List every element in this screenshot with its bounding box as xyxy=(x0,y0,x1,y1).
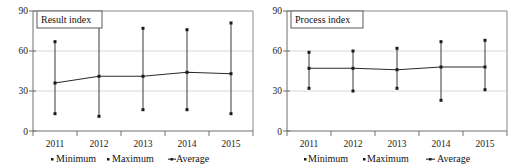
x-tick-label-2013: 2013 xyxy=(134,139,153,149)
legend-marker-minimum-icon xyxy=(304,158,307,161)
y-tick-label-0: 0 xyxy=(277,127,282,137)
max-point-2012 xyxy=(352,50,355,53)
avg-point-2015 xyxy=(484,66,487,69)
x-tick-label-2015: 2015 xyxy=(476,139,495,149)
x-tick-label-2012: 2012 xyxy=(344,139,363,149)
x-tick-label-2014: 2014 xyxy=(178,139,197,149)
min-point-2011 xyxy=(308,87,311,90)
avg-point-2014 xyxy=(186,71,189,74)
avg-point-2013 xyxy=(396,68,399,71)
legend-label-maximum: Maximum xyxy=(367,153,409,164)
legend-label-average: Average xyxy=(437,153,471,164)
min-point-2013 xyxy=(396,87,399,90)
max-point-2014 xyxy=(186,28,189,31)
legend-label-average: Average xyxy=(176,153,210,164)
chart-panel-process-index: 90 60 30 0 xyxy=(260,0,519,168)
avg-point-2012 xyxy=(352,67,355,70)
chart-panel-result-index: 90 60 30 0 xyxy=(0,0,259,168)
avg-point-2014 xyxy=(440,66,443,69)
min-point-2015 xyxy=(230,112,233,115)
max-point-2013 xyxy=(396,47,399,50)
legend-marker-minimum-icon xyxy=(51,158,54,161)
y-tick-label-0: 0 xyxy=(23,127,28,137)
x-tick-label-2011: 2011 xyxy=(300,139,319,149)
legend-marker-maximum-icon xyxy=(107,158,110,161)
max-point-2015 xyxy=(484,39,487,42)
avg-point-2011 xyxy=(308,67,311,70)
x-tick-label-2014: 2014 xyxy=(432,139,451,149)
legend-marker-maximum-icon xyxy=(363,158,366,161)
min-point-2012 xyxy=(352,90,355,93)
max-point-2013 xyxy=(142,27,145,30)
avg-point-2012 xyxy=(98,75,101,78)
legend-marker-average-dot-icon xyxy=(171,158,174,161)
max-point-2014 xyxy=(440,40,443,43)
min-point-2014 xyxy=(440,99,443,102)
min-point-2014 xyxy=(186,108,189,111)
legend-label-minimum: Minimum xyxy=(56,153,96,164)
max-point-2015 xyxy=(230,22,233,25)
x-tick-label-2011: 2011 xyxy=(46,139,65,149)
min-point-2011 xyxy=(54,112,57,115)
min-point-2013 xyxy=(142,108,145,111)
min-point-2012 xyxy=(98,115,101,118)
result-index-chart-svg: 90 60 30 0 xyxy=(0,0,259,168)
max-point-2011 xyxy=(54,40,57,43)
x-tick-label-2012: 2012 xyxy=(90,139,109,149)
y-tick-label-30: 30 xyxy=(273,86,283,96)
avg-point-2013 xyxy=(142,75,145,78)
process-index-chart-svg: 90 60 30 0 xyxy=(260,0,519,168)
panel-title: Process index xyxy=(295,14,350,25)
legend-label-minimum: Minimum xyxy=(308,153,348,164)
x-tick-label-2013: 2013 xyxy=(388,139,407,149)
min-point-2015 xyxy=(484,88,487,91)
avg-point-2015 xyxy=(230,72,233,75)
panel-title: Result index xyxy=(41,14,91,25)
avg-point-2011 xyxy=(54,82,57,85)
legend-label-maximum: Maximum xyxy=(112,153,154,164)
x-tick-label-2015: 2015 xyxy=(222,139,241,149)
y-tick-label-90: 90 xyxy=(19,6,29,16)
max-point-2011 xyxy=(308,51,311,54)
y-tick-label-60: 60 xyxy=(19,46,29,56)
y-tick-label-60: 60 xyxy=(273,46,283,56)
y-tick-label-90: 90 xyxy=(273,6,283,16)
legend-marker-average-dot-icon xyxy=(429,158,432,161)
y-tick-label-30: 30 xyxy=(19,86,29,96)
dual-chart-figure: 90 60 30 0 xyxy=(0,0,519,168)
